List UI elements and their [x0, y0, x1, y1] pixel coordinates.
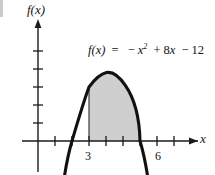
equation-term1-sign: −	[128, 43, 135, 57]
equation-equals: =	[111, 43, 118, 57]
shaded-area-region	[89, 72, 140, 141]
page-margin-artifact	[0, 0, 3, 17]
y-axis-arrowhead	[35, 19, 42, 28]
equation-term2-variable: x	[170, 43, 176, 57]
x-tick-label-3: 3	[85, 150, 91, 162]
x-axis-label: x	[200, 132, 206, 145]
equation-term2-sign: +	[153, 43, 160, 57]
plot-canvas	[0, 0, 215, 175]
equation-term3-value: 12	[191, 43, 204, 57]
y-axis-label: f(x)	[27, 3, 45, 16]
figure-parabola-shaded-region: f(x) x 3 6 f(x) = −x2 +8x −12	[0, 0, 215, 175]
equation-term1-exponent: 2	[143, 42, 147, 51]
equation-term3-sign: −	[181, 43, 188, 57]
function-equation-annotation: f(x) = −x2 +8x −12	[88, 42, 204, 58]
x-axis-arrowhead	[189, 138, 198, 145]
equation-lhs: f(x)	[88, 43, 105, 57]
x-tick-label-6: 6	[155, 150, 161, 162]
